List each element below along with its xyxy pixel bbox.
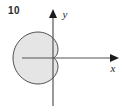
x-axis-label: x bbox=[110, 62, 116, 74]
x-axis-arrowhead bbox=[110, 54, 119, 62]
figure-container: 10 x y bbox=[0, 0, 124, 112]
y-axis-label: y bbox=[62, 8, 68, 20]
axes-group bbox=[22, 9, 119, 106]
y-axis-arrowhead bbox=[49, 9, 57, 18]
cardioid-plot: x y bbox=[0, 0, 124, 112]
